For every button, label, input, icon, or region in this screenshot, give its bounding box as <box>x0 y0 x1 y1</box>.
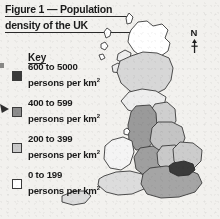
figure-population-density-uk: Figure 1 — Population density of the UK <box>0 0 220 219</box>
scan-artifact-left-lower <box>0 104 9 113</box>
region-south-east-england <box>141 166 202 198</box>
north-arrow-icon <box>190 39 199 53</box>
region-isle-of-man <box>124 128 130 135</box>
key-exponent-200-399: 2 <box>97 149 100 155</box>
key-label-600-5000: 600 to 5000 persons per km2 <box>28 61 100 89</box>
key-label-0-199: 0 to 199 persons per km2 <box>28 169 100 197</box>
key-unit-200-399: persons per km <box>28 149 97 160</box>
region-north-east-england <box>149 102 176 132</box>
compass: N <box>186 28 202 53</box>
scan-artifact-left-upper <box>0 63 4 68</box>
region-yorkshire-humber <box>150 122 185 152</box>
key-item-0-199: 0 to 199 persons per km2 <box>12 170 117 200</box>
region-west-midlands <box>134 146 163 176</box>
region-east-midlands <box>157 145 184 171</box>
key-range-200-399: 200 to 399 <box>28 133 72 144</box>
key-label-200-399: 200 to 399 persons per km2 <box>28 133 100 161</box>
region-north-west-england <box>128 105 157 150</box>
key-swatch-0-199 <box>12 179 22 189</box>
key-unit-0-199: persons per km <box>28 185 97 196</box>
key-exponent-0-199: 2 <box>97 185 100 191</box>
key-unit-400-599: persons per km <box>28 113 97 124</box>
figure-title-line-1: Figure 1 — Population <box>5 2 130 17</box>
region-central-scotland <box>117 52 173 95</box>
figure-title: Figure 1 — Population density of the UK <box>5 2 130 33</box>
key-unit-600-5000: persons per km <box>28 77 97 88</box>
key-exponent-600-5000: 2 <box>97 77 100 83</box>
key-label-400-599: 400 to 599 persons per km2 <box>28 97 100 125</box>
key-range-600-5000: 600 to 5000 <box>28 61 78 72</box>
key-swatch-400-599 <box>12 107 22 117</box>
key-range-0-199: 0 to 199 <box>28 169 62 180</box>
region-east-of-england <box>173 142 202 169</box>
region-northern-scotland <box>128 21 170 59</box>
key-swatch-200-399 <box>12 143 22 153</box>
key-item-200-399: 200 to 399 persons per km2 <box>12 134 117 164</box>
region-southern-scotland <box>121 89 166 114</box>
key-item-600-5000: 600 to 5000 persons per km2 <box>12 62 117 92</box>
key-exponent-400-599: 2 <box>97 113 100 119</box>
key-swatch-600-5000 <box>12 71 22 81</box>
compass-label: N <box>186 28 202 38</box>
figure-title-line-2: density of the UK <box>5 18 130 33</box>
region-greater-london <box>169 161 195 176</box>
key-item-400-599: 400 to 599 persons per km2 <box>12 98 117 128</box>
key-range-400-599: 400 to 599 <box>28 97 72 108</box>
